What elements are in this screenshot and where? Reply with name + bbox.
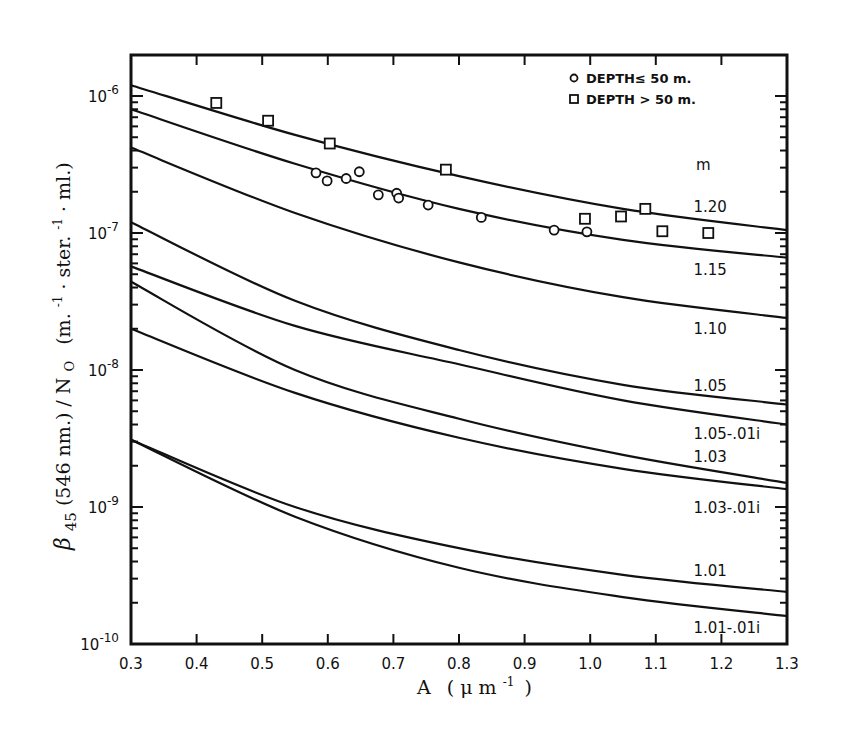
- data-point-square: [325, 139, 335, 149]
- data-point-square: [580, 214, 590, 224]
- legend: DEPTH≤ 50 m. DEPTH > 50 m.: [570, 71, 696, 107]
- data-point-circle: [424, 201, 433, 210]
- svg-text:β 45 (546 nm.) / N: β 45 (546 nm.) / N O (m. -1 · ster. -1 ·…: [44, 162, 80, 551]
- y-tick-label: 10-6: [88, 83, 119, 106]
- data-point-square: [263, 116, 273, 126]
- y-tick-label: 10-7: [88, 220, 119, 243]
- curve-label: 1.05-.01i: [693, 425, 760, 443]
- data-point-circle: [342, 174, 351, 183]
- curve-m-1-15: [131, 109, 787, 257]
- legend-circle-icon: [571, 75, 578, 82]
- x-tick-label: 1.1: [644, 655, 668, 673]
- data-point-square: [657, 226, 667, 236]
- curve-label: 1.20: [693, 198, 726, 216]
- y-title-units-exp2: -1: [51, 218, 65, 230]
- y-axis-title: β 45 (546 nm.) / N O (m. -1 · ster. -1 ·…: [44, 162, 80, 551]
- x-axis-title: A ( μ m -1 ): [416, 668, 532, 698]
- data-point-circle: [550, 226, 559, 235]
- y-tick-label: 10-9: [88, 494, 119, 517]
- y-title-units-mid: · ster.: [52, 236, 74, 290]
- legend-label-shallow: DEPTH≤ 50 m.: [586, 71, 691, 86]
- x-tick-label: 0.3: [119, 655, 143, 673]
- y-title-n-sub: O: [62, 361, 77, 372]
- y-title-units-exp1: -1: [51, 296, 65, 308]
- curve-m-1-05: [131, 222, 787, 404]
- curve-label: 1.10: [693, 320, 726, 338]
- data-point-square: [640, 204, 650, 214]
- y-tick-label: 10-8: [88, 357, 119, 380]
- x-tick-label: 1.2: [709, 655, 733, 673]
- y-title-units-end: · ml.): [52, 162, 74, 212]
- x-title-main: A: [416, 676, 431, 698]
- x-tick-label: 0.6: [316, 655, 340, 673]
- curve-label: 1.01-.01i: [693, 619, 760, 637]
- y-title-sub: 45: [62, 512, 80, 531]
- y-title-beta: β: [50, 537, 75, 551]
- y-title-units: (m.: [52, 313, 74, 344]
- data-points-group: [211, 98, 713, 238]
- data-point-square: [441, 165, 451, 175]
- data-point-square: [703, 228, 713, 238]
- x-tick-label: 1.0: [578, 655, 602, 673]
- legend-label-deep: DEPTH > 50 m.: [586, 92, 696, 107]
- x-title-close: ): [524, 676, 531, 698]
- data-point-circle: [394, 194, 403, 203]
- y-axis-ticks: 10-610-710-810-910-10: [80, 83, 787, 654]
- curve-m-1-05-01i: [131, 266, 787, 424]
- y-title-rest: (546 nm.) / N: [52, 378, 74, 507]
- curve-label: 1.15: [693, 261, 726, 279]
- curve-label: 1.03: [693, 448, 726, 466]
- data-point-circle: [323, 176, 332, 185]
- curve-group-label: m: [696, 156, 711, 174]
- x-title-unit: ( μ m: [447, 676, 497, 698]
- x-tick-label: 1.3: [775, 655, 799, 673]
- curve-m-1-03: [131, 282, 787, 483]
- svg-text:A ( μ m -1 ): A ( μ m -1 ): [416, 668, 532, 698]
- x-title-exp: -1: [503, 675, 515, 689]
- y-tick-label: 10-10: [80, 631, 119, 654]
- curve-label: 1.03-.01i: [693, 499, 760, 517]
- curve-label: 1.05: [693, 377, 726, 395]
- curve-m-1-03-01i: [131, 329, 787, 489]
- legend-square-icon: [570, 95, 578, 103]
- curve-labels: 1.201.151.101.051.05-.01i1.031.03-.01i1.…: [693, 198, 760, 637]
- data-point-circle: [374, 190, 383, 199]
- curve-m-1-10: [131, 148, 787, 318]
- curve-label: 1.01: [693, 562, 726, 580]
- data-point-square: [211, 98, 221, 108]
- data-point-circle: [477, 213, 486, 222]
- x-tick-label: 0.8: [447, 655, 471, 673]
- chart-canvas: 0.30.40.50.60.70.80.91.01.11.21.3 10-610…: [0, 0, 842, 738]
- x-tick-label: 0.7: [381, 655, 405, 673]
- data-point-circle: [582, 227, 591, 236]
- x-tick-label: 0.5: [250, 655, 274, 673]
- x-tick-label: 0.4: [185, 655, 209, 673]
- data-point-circle: [355, 167, 364, 176]
- data-point-circle: [311, 168, 320, 177]
- data-point-square: [616, 211, 626, 221]
- curve-m-1-01: [131, 440, 787, 592]
- curves-group: [131, 85, 787, 616]
